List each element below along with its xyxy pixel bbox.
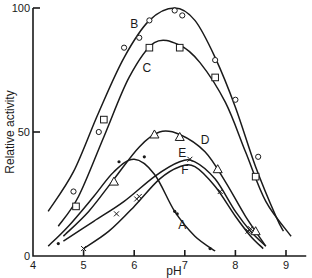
marker-b-circle-icon [256, 154, 261, 159]
ph-activity-chart: 456789050100 ABCDEF pH Relative activity [0, 0, 312, 278]
label-f: F [181, 163, 188, 177]
curve-e [63, 160, 265, 246]
y-tick-label: 50 [18, 126, 30, 138]
marker-b-circle-icon [71, 189, 76, 194]
x-tick-label: 7 [182, 259, 188, 271]
y-tick-label: 0 [24, 250, 30, 262]
data-markers [57, 8, 261, 251]
label-c: C [143, 61, 152, 75]
curve-b [48, 8, 283, 231]
marker-b-circle-icon [172, 8, 177, 13]
marker-a-dot-icon [176, 212, 179, 215]
x-tick-label: 5 [81, 259, 87, 271]
label-b: B [130, 17, 138, 31]
label-e: E [178, 146, 186, 160]
marker-b-circle-icon [137, 35, 142, 40]
marker-c-square-icon [176, 44, 183, 51]
marker-a-dot-icon [143, 155, 146, 158]
marker-a-dot-icon [173, 210, 176, 213]
curves [48, 8, 291, 251]
marker-a-dot-icon [209, 247, 212, 250]
marker-e-cross-icon [114, 211, 119, 216]
x-tick-label: 6 [131, 259, 137, 271]
x-tick-label: 8 [232, 259, 238, 271]
curve-f [84, 165, 264, 249]
marker-c-square-icon [101, 116, 108, 123]
label-a: A [178, 218, 186, 232]
marker-a-dot-icon [57, 242, 60, 245]
chart-canvas: 456789050100 ABCDEF pH Relative activity [0, 0, 312, 278]
marker-b-circle-icon [147, 18, 152, 23]
marker-a-dot-icon [117, 160, 120, 163]
marker-b-circle-icon [213, 57, 218, 62]
marker-d-triangle-icon [213, 165, 222, 173]
marker-c-square-icon [146, 44, 153, 51]
marker-c-square-icon [212, 74, 219, 81]
marker-b-circle-icon [121, 45, 126, 50]
label-d: D [201, 133, 210, 147]
marker-b-circle-icon [233, 97, 238, 102]
series-labels: ABCDEF [130, 17, 210, 232]
marker-f-cross-icon [134, 196, 139, 201]
marker-b-circle-icon [96, 129, 101, 134]
marker-c-square-icon [73, 203, 80, 210]
x-tick-label: 9 [283, 259, 289, 271]
marker-c-square-icon [252, 173, 259, 180]
x-axis-label: pH [166, 264, 181, 278]
marker-d-triangle-icon [150, 130, 159, 138]
axes: 456789050100 [12, 2, 307, 271]
marker-b-circle-icon [180, 13, 185, 18]
curve-d [63, 131, 265, 246]
marker-d-triangle-icon [109, 177, 118, 185]
x-tick-label: 4 [30, 259, 36, 271]
y-axis-label: Relative activity [3, 90, 17, 173]
y-tick-label: 100 [12, 2, 30, 14]
